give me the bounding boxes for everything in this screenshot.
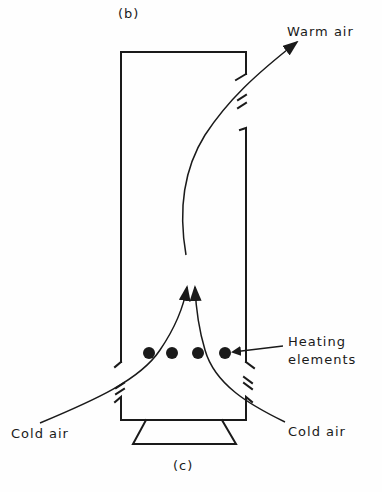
top-louvre-slat [238, 95, 246, 100]
heating-elements-label-line1: Heating [288, 334, 346, 349]
bottom-right-louvre-slat [246, 362, 254, 368]
heating-elements [143, 347, 231, 359]
warm-air-label: Warm air [287, 24, 354, 39]
diagram-drawing [0, 0, 382, 492]
cabinet-top-wall [121, 52, 246, 74]
heater-base [133, 420, 236, 444]
heating-element [143, 347, 155, 359]
bottom-left-louvre-slat [116, 389, 124, 394]
bottom-left-louvre-slat [115, 362, 121, 367]
bottom-right-louvre-slat [244, 377, 252, 383]
cold-air-right-label: Cold air [288, 424, 346, 439]
top-louvre-slat [236, 74, 246, 80]
top-louvre-slat [238, 103, 246, 108]
convector-heater-diagram: (b) Warm air Heating elements Cold air C… [0, 0, 382, 492]
warm-air-flow [183, 42, 297, 255]
panel-label-c: (c) [173, 458, 193, 473]
heating-element [219, 347, 231, 359]
panel-label-b: (b) [118, 6, 139, 21]
heating-element [192, 347, 204, 359]
cold-air-left-flow [40, 287, 187, 423]
cold-air-right-flow [195, 287, 285, 422]
cold-air-left-label: Cold air [11, 426, 69, 441]
heating-leader-line [233, 346, 283, 352]
heating-element [166, 347, 178, 359]
bottom-right-louvre-slat [244, 383, 252, 389]
cabinet-left-wall-lower [115, 397, 121, 420]
heating-elements-label-line2: elements [288, 352, 356, 367]
cabinet-right-wall [240, 128, 246, 362]
